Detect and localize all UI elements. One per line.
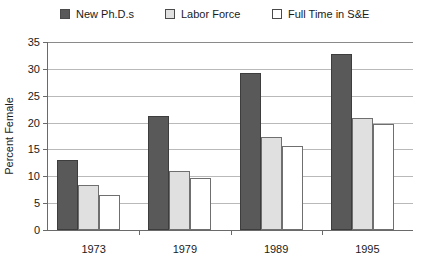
bar-1995-labor-force[interactable] bbox=[352, 118, 373, 230]
y-axis-tick-label: 15 bbox=[28, 144, 40, 155]
x-axis-tick bbox=[322, 230, 323, 235]
y-axis-tick bbox=[43, 123, 48, 124]
legend-label: New Ph.D.s bbox=[76, 8, 134, 20]
bar-group-1995 bbox=[331, 42, 394, 230]
legend-swatch-icon bbox=[272, 9, 282, 19]
y-axis-tick bbox=[43, 149, 48, 150]
legend-item-1[interactable]: Labor Force bbox=[165, 8, 240, 20]
bar-1973-full-time-in-s-e[interactable] bbox=[99, 195, 120, 230]
y-axis-tick bbox=[43, 96, 48, 97]
bar-group-1973 bbox=[57, 42, 120, 230]
chart-legend: New Ph.D.sLabor ForceFull Time in S&E bbox=[0, 6, 436, 28]
bar-1979-labor-force[interactable] bbox=[169, 171, 190, 230]
plot-area: 051015202530351973197919891995 bbox=[47, 42, 413, 231]
bar-1979-full-time-in-s-e[interactable] bbox=[190, 178, 211, 230]
y-axis-tick bbox=[43, 69, 48, 70]
y-axis-tick-label: 10 bbox=[28, 171, 40, 182]
x-axis-tick bbox=[231, 230, 232, 235]
legend-item-2[interactable]: Full Time in S&E bbox=[272, 8, 369, 20]
bar-group-1979 bbox=[148, 42, 211, 230]
x-axis-tick bbox=[139, 230, 140, 235]
y-axis-tick bbox=[43, 176, 48, 177]
x-axis-tick-label: 1973 bbox=[81, 243, 105, 255]
bar-1973-labor-force[interactable] bbox=[78, 185, 99, 230]
y-axis-tick-label: 35 bbox=[28, 37, 40, 48]
x-axis-tick-label: 1995 bbox=[355, 243, 379, 255]
x-axis-tick-label: 1979 bbox=[173, 243, 197, 255]
x-axis-tick-label: 1989 bbox=[264, 243, 288, 255]
y-axis-tick-label: 25 bbox=[28, 90, 40, 101]
bar-1995-full-time-in-s-e[interactable] bbox=[373, 124, 394, 230]
y-axis-tick-label: 30 bbox=[28, 63, 40, 74]
legend-swatch-icon bbox=[165, 9, 175, 19]
y-axis-title: Percent Female bbox=[2, 42, 16, 230]
y-axis-tick-label: 20 bbox=[28, 117, 40, 128]
bar-1995-new-ph-d-s[interactable] bbox=[331, 54, 352, 230]
legend-label: Full Time in S&E bbox=[288, 8, 369, 20]
bar-1989-new-ph-d-s[interactable] bbox=[240, 73, 261, 230]
bar-1973-new-ph-d-s[interactable] bbox=[57, 160, 78, 230]
bar-chart: New Ph.D.sLabor ForceFull Time in S&E Pe… bbox=[0, 0, 436, 271]
legend-label: Labor Force bbox=[181, 8, 240, 20]
y-axis-tick bbox=[43, 203, 48, 204]
legend-swatch-icon bbox=[60, 9, 70, 19]
y-axis-tick-label: 0 bbox=[34, 225, 40, 236]
legend-item-0[interactable]: New Ph.D.s bbox=[60, 8, 134, 20]
y-axis-tick-label: 5 bbox=[34, 198, 40, 209]
y-axis-title-label: Percent Female bbox=[3, 97, 15, 175]
bar-group-1989 bbox=[240, 42, 303, 230]
bar-1989-labor-force[interactable] bbox=[261, 137, 282, 230]
y-axis-tick bbox=[43, 42, 48, 43]
y-axis-tick bbox=[43, 230, 48, 231]
bar-1979-new-ph-d-s[interactable] bbox=[148, 116, 169, 230]
bar-1989-full-time-in-s-e[interactable] bbox=[282, 146, 303, 230]
